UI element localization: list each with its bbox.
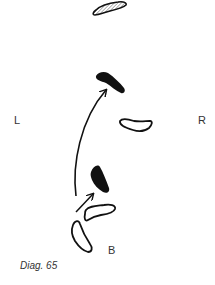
footprint-upper-solid	[96, 72, 125, 93]
label-back: B	[108, 244, 115, 256]
dance-step-diagram	[0, 0, 215, 285]
footprint-right-outline	[120, 119, 152, 131]
footprint-bottom-outline	[72, 221, 92, 252]
footprint-lower-solid	[91, 166, 110, 193]
footprint-top-hatched	[93, 2, 126, 15]
label-left: L	[14, 114, 20, 126]
diagram-caption: Diag. 65	[20, 260, 57, 271]
label-right: R	[198, 114, 206, 126]
footprint-lower-outline	[85, 205, 115, 221]
